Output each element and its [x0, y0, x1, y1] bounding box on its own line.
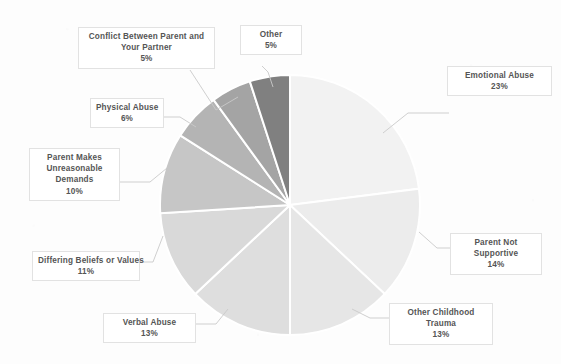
label-physical-abuse: Physical Abuse 6% [90, 98, 164, 128]
label-emotional-abuse-pct: 23% [453, 81, 546, 92]
pie-slice [290, 75, 419, 205]
label-physical-abuse-name: Physical Abuse [96, 102, 158, 113]
label-differing-beliefs-pct: 11% [38, 266, 134, 277]
label-emotional-abuse-name: Emotional Abuse [453, 70, 546, 81]
label-parent-demands-name2: Unreasonable [35, 163, 114, 174]
label-other-childhood-trauma-name1: Other Childhood [395, 307, 487, 318]
label-physical-abuse-pct: 6% [96, 113, 158, 124]
label-other-childhood-trauma-pct: 13% [395, 329, 487, 340]
leader-parent-not-supportive [419, 232, 452, 248]
label-parent-demands-pct: 10% [35, 186, 114, 197]
label-other-name: Other [246, 29, 296, 40]
label-parent-demands-name1: Parent Makes [35, 152, 114, 163]
label-emotional-abuse: Emotional Abuse 23% [447, 66, 552, 96]
label-verbal-abuse-pct: 13% [109, 328, 190, 339]
label-parent-not-supportive-name2: Supportive [456, 248, 536, 259]
label-conflict-partner-name2: Your Partner [84, 42, 209, 53]
label-differing-beliefs-name: Differing Beliefs or Values [38, 255, 134, 266]
label-parent-not-supportive-name1: Parent Not [456, 237, 536, 248]
label-differing-beliefs: Differing Beliefs or Values 11% [32, 251, 140, 281]
label-other-childhood-trauma: Other Childhood Trauma 13% [389, 303, 493, 345]
label-parent-demands-name3: Demands [35, 174, 114, 185]
label-verbal-abuse-name: Verbal Abuse [109, 317, 190, 328]
label-parent-not-supportive-pct: 14% [456, 259, 536, 270]
label-parent-not-supportive: Parent Not Supportive 14% [450, 233, 542, 275]
label-other-pct: 5% [246, 40, 296, 51]
label-parent-demands: Parent Makes Unreasonable Demands 10% [29, 148, 120, 201]
label-conflict-partner-pct: 5% [84, 53, 209, 64]
chart-canvas: Emotional Abuse 23% Parent Not Supportiv… [0, 0, 561, 364]
label-other: Other 5% [240, 25, 302, 55]
label-other-childhood-trauma-name2: Trauma [395, 318, 487, 329]
label-verbal-abuse: Verbal Abuse 13% [103, 313, 196, 343]
leader-parent-demands [120, 168, 167, 182]
pie-slices [160, 75, 420, 335]
label-conflict-partner: Conflict Between Parent and Your Partner… [78, 27, 215, 69]
label-conflict-partner-name1: Conflict Between Parent and [84, 31, 209, 42]
